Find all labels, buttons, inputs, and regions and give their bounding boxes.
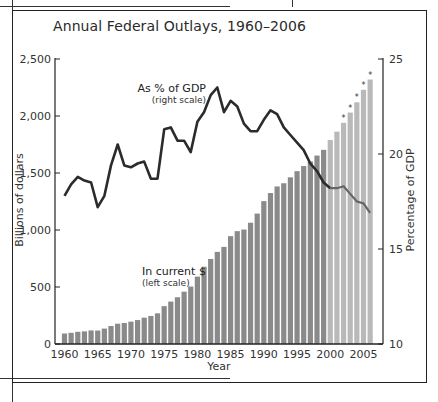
bar-1960: [62, 334, 67, 344]
bar-1966: [102, 329, 107, 344]
x-tick-label: 1965: [84, 348, 112, 361]
bar-1972: [142, 318, 147, 344]
bar-1974: [155, 313, 160, 344]
x-tick-label: 1970: [117, 348, 145, 361]
bar-1991: [268, 193, 273, 344]
bar-1993: [281, 183, 286, 344]
bar-1975: [162, 306, 167, 344]
estimate-star-icon: *: [355, 93, 359, 102]
bar-1998: [314, 156, 319, 344]
bar-1984: [221, 247, 226, 344]
bar-1996: [301, 166, 306, 344]
bar-1994: [288, 177, 293, 344]
bar-2005: [361, 90, 366, 344]
line-annotation-sub: (right scale): [152, 95, 206, 105]
bar-1987: [241, 230, 246, 344]
bar-1982: [208, 259, 213, 344]
left-tick-label: 2,000: [20, 110, 52, 123]
x-axis-title: Year: [206, 360, 231, 373]
bar-annotation-sub: (left scale): [142, 278, 190, 288]
bar-1963: [82, 331, 87, 344]
bar-series: [62, 80, 373, 344]
bar-2001: [334, 132, 339, 344]
bar-1977: [175, 297, 180, 344]
right-tick-label: 10: [389, 338, 403, 351]
bar-1961: [69, 333, 74, 344]
bar-1990: [261, 201, 266, 344]
bar-2003: [348, 113, 353, 344]
right-tick-label: 25: [389, 53, 403, 66]
bar-2000: [328, 140, 333, 344]
right-tick-label: 15: [389, 243, 403, 256]
bar-1971: [135, 320, 140, 344]
x-tick-label: 2005: [350, 348, 378, 361]
chart-canvas: ***** 05001,0001,5002,0002,500 10152025 …: [0, 0, 438, 402]
bar-1969: [122, 323, 127, 344]
estimate-star-icon: *: [362, 81, 366, 90]
estimate-star-icon: *: [368, 71, 372, 80]
bar-1970: [128, 322, 133, 344]
x-tick-label: 1960: [51, 348, 79, 361]
left-axis-title: Billions of dollars: [13, 153, 26, 247]
bar-1965: [95, 331, 100, 344]
bar-1978: [182, 292, 187, 344]
bar-1980: [195, 277, 200, 344]
right-axis-title: Percentage of GDP: [404, 148, 417, 251]
line-annotation: As % of GDP: [138, 82, 207, 95]
left-tick-label: 500: [30, 281, 51, 294]
x-tick-label: 1975: [150, 348, 178, 361]
bar-1992: [275, 186, 280, 344]
bar-1995: [294, 171, 299, 344]
left-tick-label: 2,500: [20, 53, 52, 66]
bar-1983: [215, 252, 220, 344]
x-tick-label: 1995: [283, 348, 311, 361]
x-tick-label: 1990: [250, 348, 278, 361]
right-tick-label: 20: [389, 148, 403, 161]
bar-1988: [248, 223, 253, 344]
x-tick-label: 2000: [316, 348, 344, 361]
bar-1968: [115, 324, 120, 344]
bar-annotation: In current $: [142, 265, 206, 278]
bar-2004: [354, 102, 359, 344]
bar-1962: [75, 332, 80, 344]
estimate-star-icon: *: [348, 104, 352, 113]
bar-1981: [201, 267, 206, 344]
bar-1989: [255, 214, 260, 344]
bar-1973: [148, 316, 153, 344]
estimate-star-icon: *: [342, 114, 346, 123]
bar-1985: [228, 236, 233, 344]
bar-1997: [308, 161, 313, 344]
right-axis-ticks: 10152025: [378, 53, 403, 351]
bar-1976: [168, 302, 173, 344]
bar-1986: [235, 231, 240, 344]
bar-1964: [88, 330, 93, 344]
bar-2002: [341, 123, 346, 344]
bar-1979: [188, 287, 193, 344]
bar-1967: [108, 326, 113, 344]
